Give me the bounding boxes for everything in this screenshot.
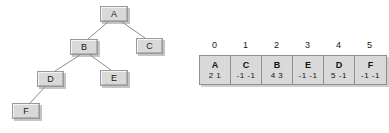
- array-cell-key: D: [336, 60, 343, 71]
- array-cell-key: F: [368, 60, 374, 71]
- tree-node-label: B: [71, 40, 97, 54]
- tree-node-label: C: [137, 39, 162, 53]
- array-cell-row: A2 1C-1 -1B4 3E-1 -1D5 -1F-1 -1: [199, 55, 387, 85]
- tree-node-d[interactable]: D: [37, 71, 64, 87]
- array-cell-key: B: [274, 60, 281, 71]
- array-cell-0[interactable]: A2 1: [200, 56, 231, 84]
- array-index-5: 5: [354, 40, 385, 55]
- array-index-header-row: 012345: [199, 40, 387, 55]
- array-cell-children: 5 -1: [331, 71, 347, 81]
- array-cell-key: A: [212, 60, 219, 71]
- tree-node-f[interactable]: F: [12, 103, 40, 119]
- array-cell-3[interactable]: E-1 -1: [293, 56, 324, 84]
- tree-edge-a-b: [88, 22, 108, 39]
- array-cell-5[interactable]: F-1 -1: [355, 56, 386, 84]
- tree-node-label: F: [13, 104, 39, 118]
- tree-node-e[interactable]: E: [100, 70, 128, 86]
- array-cell-children: -1 -1: [361, 71, 380, 81]
- array-cell-key: E: [305, 60, 311, 71]
- binary-tree-diagram: ABCDEF: [0, 0, 195, 133]
- array-cell-children: -1 -1: [299, 71, 318, 81]
- array-index-0: 0: [199, 40, 230, 55]
- tree-node-label: A: [101, 7, 127, 21]
- array-cell-children: 4 3: [271, 71, 284, 81]
- array-index-1: 1: [230, 40, 261, 55]
- tree-edge-b-d: [55, 55, 80, 71]
- tree-edge-a-c: [122, 22, 145, 38]
- tree-node-c[interactable]: C: [136, 38, 163, 54]
- array-cell-children: 2 1: [209, 71, 222, 81]
- tree-node-label: E: [101, 71, 127, 85]
- diagram-canvas: ABCDEF 012345 A2 1C-1 -1B4 3E-1 -1D5 -1F…: [0, 0, 389, 133]
- array-index-4: 4: [323, 40, 354, 55]
- array-representation-table: 012345 A2 1C-1 -1B4 3E-1 -1D5 -1F-1 -1: [199, 40, 387, 85]
- array-cell-2[interactable]: B4 3: [262, 56, 293, 84]
- array-cell-1[interactable]: C-1 -1: [231, 56, 262, 84]
- array-cell-children: -1 -1: [237, 71, 256, 81]
- array-index-2: 2: [261, 40, 292, 55]
- tree-node-label: D: [38, 72, 63, 86]
- array-cell-key: C: [243, 60, 250, 71]
- tree-edge-b-e: [90, 55, 111, 70]
- tree-node-a[interactable]: A: [100, 6, 128, 22]
- tree-edge-d-f: [30, 87, 45, 103]
- tree-node-b[interactable]: B: [70, 39, 98, 55]
- array-cell-4[interactable]: D5 -1: [324, 56, 355, 84]
- array-index-3: 3: [292, 40, 323, 55]
